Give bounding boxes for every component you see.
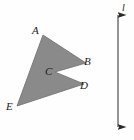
vertex-label-e: E [6, 101, 13, 112]
vertex-label-c: C [45, 66, 52, 77]
line-label-l: l [122, 3, 125, 13]
vertex-label-a: A [32, 25, 39, 36]
geometry-figure: A B C D E l [0, 0, 134, 140]
vertex-label-b: B [84, 56, 91, 67]
figure-canvas [0, 0, 134, 140]
vertex-label-d: D [80, 80, 88, 91]
